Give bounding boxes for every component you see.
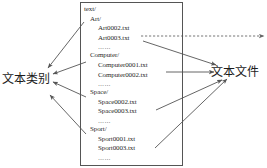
tree-file-art-2: Art0003.txt (81, 34, 182, 44)
tree-ellipsis-art: …… (81, 43, 182, 51)
tree-folder-computer: Computer/ (81, 51, 182, 61)
tree-folder-art: Art/ (81, 15, 182, 25)
tree-file-art-1: Art0002.txt (81, 24, 182, 34)
tree-folder-space: Space/ (81, 88, 182, 98)
tree-file-computer-2: Computer0002.txt (81, 71, 182, 81)
tree-ellipsis-sport: …… (81, 154, 182, 162)
tree-file-space-1: Space0002.txt (81, 98, 182, 108)
tree-folder-sport: Sport/ (81, 125, 182, 135)
tree-file-computer-1: Computer0001.txt (81, 61, 182, 71)
text-category-label: 文本类别 (2, 69, 50, 86)
directory-tree-list: text/ Art/ Art0002.txt Art0003.txt …… Co… (81, 3, 182, 165)
tree-file-sport-2: Sport0003.txt (81, 144, 182, 154)
tree-ellipsis-space: …… (81, 117, 182, 125)
diagram-canvas: text/ Art/ Art0002.txt Art0003.txt …… Co… (0, 0, 267, 168)
tree-file-sport-1: Sport0001.txt (81, 135, 182, 145)
tree-file-space-2: Space0003.txt (81, 107, 182, 117)
tree-root-label: text/ (81, 5, 182, 15)
arrow-from-art-folder (48, 22, 84, 68)
text-file-label: 文本文件 (211, 62, 259, 79)
tree-ellipsis-computer: …… (81, 80, 182, 88)
